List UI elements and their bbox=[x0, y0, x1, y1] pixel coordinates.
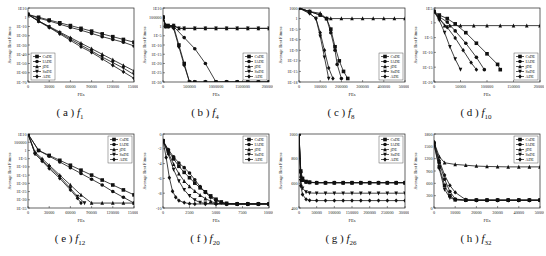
svg-text:1: 1 bbox=[24, 148, 26, 153]
svg-text:1E-18: 1E-18 bbox=[287, 80, 297, 85]
chart-svg: 1E511E-51E-101E-151E-2005000010000015000… bbox=[408, 2, 544, 102]
legend: CsDEIADEjDESaDEADE bbox=[243, 136, 267, 163]
svg-text:50000: 50000 bbox=[311, 210, 321, 215]
svg-text:120000: 120000 bbox=[107, 210, 120, 215]
svg-text:1E-20: 1E-20 bbox=[151, 61, 161, 66]
svg-text:1: 1 bbox=[24, 15, 26, 20]
caption-label: ( c ) bbox=[327, 106, 347, 118]
svg-text:200000: 200000 bbox=[363, 210, 376, 215]
svg-text:1000000: 1000000 bbox=[209, 84, 224, 89]
chart-panel-d: 1E511E-51E-101E-151E-2005000010000015000… bbox=[408, 2, 544, 130]
svg-text:Average Best Fitness: Average Best Fitness bbox=[142, 152, 147, 189]
svg-text:30000: 30000 bbox=[44, 84, 54, 89]
chart-caption: ( b ) f4 bbox=[137, 106, 273, 121]
svg-text:1E-5: 1E-5 bbox=[424, 35, 432, 40]
caption-subscript: 32 bbox=[485, 239, 492, 247]
legend: CsDEIADEjDESaDEADE bbox=[379, 53, 403, 80]
svg-text:1E-25: 1E-25 bbox=[151, 70, 161, 75]
legend: CsDEIADEjDESaDEADE bbox=[108, 136, 132, 163]
svg-text:400000: 400000 bbox=[378, 84, 391, 89]
caption-subscript: 1 bbox=[80, 113, 84, 121]
chart-caption: ( h ) f32 bbox=[408, 232, 544, 247]
svg-text:1E-15: 1E-15 bbox=[287, 69, 297, 74]
svg-text:400: 400 bbox=[291, 206, 297, 211]
svg-text:1E-25: 1E-25 bbox=[16, 189, 26, 194]
chart-panel-c: 100011E-51E-61E-91E-121E-151E-1801000002… bbox=[273, 2, 409, 130]
chart-svg: 1E1010000011E-51E-101E-151E-201E-251E-30… bbox=[137, 2, 273, 102]
svg-text:1E-30: 1E-30 bbox=[151, 80, 161, 85]
caption-label: ( f ) bbox=[190, 232, 209, 244]
caption-subscript: 10 bbox=[485, 113, 492, 121]
chart-caption: ( f ) f20 bbox=[137, 232, 273, 247]
legend: CsDEIADEjDESaDEADE bbox=[379, 136, 403, 163]
svg-text:1E-10: 1E-10 bbox=[16, 24, 26, 29]
svg-text:ADE: ADE bbox=[526, 157, 535, 162]
svg-text:1E-5: 1E-5 bbox=[289, 27, 297, 32]
chart-svg: 1000800600400050000100000150000200000250… bbox=[273, 128, 409, 228]
svg-text:Average Best Fitness: Average Best Fitness bbox=[413, 152, 418, 189]
svg-text:1E-15: 1E-15 bbox=[16, 173, 26, 178]
svg-text:200000: 200000 bbox=[335, 84, 348, 89]
svg-text:40000: 40000 bbox=[514, 210, 524, 215]
svg-text:1E10: 1E10 bbox=[153, 6, 162, 11]
svg-text:ADE: ADE bbox=[255, 157, 264, 162]
svg-text:90000: 90000 bbox=[86, 210, 96, 215]
svg-text:FEs: FEs bbox=[483, 92, 490, 97]
svg-text:ADE: ADE bbox=[391, 157, 400, 162]
svg-text:900: 900 bbox=[426, 169, 432, 174]
svg-text:-2: -2 bbox=[158, 146, 162, 151]
caption-label: ( b ) bbox=[191, 106, 212, 118]
svg-text:1E-70: 1E-70 bbox=[16, 80, 26, 85]
svg-text:FEs: FEs bbox=[77, 218, 84, 223]
legend: CsDEIADEjDESaDEADE bbox=[31, 53, 55, 80]
svg-text:1E-40: 1E-40 bbox=[16, 52, 26, 57]
svg-text:100000: 100000 bbox=[149, 15, 162, 20]
svg-text:50000: 50000 bbox=[535, 210, 544, 215]
svg-text:1E-35: 1E-35 bbox=[16, 206, 26, 211]
svg-text:60000: 60000 bbox=[65, 210, 75, 215]
svg-text:1E-5: 1E-5 bbox=[18, 156, 26, 161]
svg-text:1E-50: 1E-50 bbox=[16, 61, 26, 66]
chart-caption: ( e ) f12 bbox=[2, 232, 138, 247]
chart-panel-f: 0-2-4-6-8-10025005000750010000FEsAverage… bbox=[137, 128, 273, 256]
svg-text:90000: 90000 bbox=[86, 84, 96, 89]
svg-text:1E10: 1E10 bbox=[18, 132, 27, 137]
svg-text:1E-30: 1E-30 bbox=[16, 43, 26, 48]
svg-text:1E-20: 1E-20 bbox=[422, 80, 432, 85]
svg-text:100000: 100000 bbox=[328, 210, 341, 215]
figure-grid: 1E1011E-101E-201E-301E-401E-501E-601E-70… bbox=[0, 0, 546, 256]
svg-text:1E10: 1E10 bbox=[18, 6, 27, 11]
svg-text:Average Best Fitness: Average Best Fitness bbox=[142, 26, 147, 63]
svg-text:200000: 200000 bbox=[534, 84, 544, 89]
caption-subscript: 4 bbox=[215, 113, 219, 121]
svg-text:100000: 100000 bbox=[314, 84, 327, 89]
svg-text:1800: 1800 bbox=[424, 132, 432, 137]
svg-text:20000: 20000 bbox=[471, 210, 481, 215]
svg-text:Average Best Fitness: Average Best Fitness bbox=[278, 26, 283, 63]
caption-subscript: 20 bbox=[213, 239, 220, 247]
svg-text:30000: 30000 bbox=[492, 210, 502, 215]
chart-svg: 100011E-51E-61E-91E-121E-151E-1801000002… bbox=[273, 2, 409, 102]
caption-subscript: 12 bbox=[78, 239, 85, 247]
svg-text:7500: 7500 bbox=[238, 210, 246, 215]
svg-text:1E-60: 1E-60 bbox=[16, 70, 26, 75]
svg-text:FEs: FEs bbox=[212, 218, 219, 223]
svg-text:1E-30: 1E-30 bbox=[16, 197, 26, 202]
chart-caption: ( a ) f1 bbox=[2, 106, 138, 121]
svg-text:1000: 1000 bbox=[289, 6, 297, 11]
svg-text:1E-6: 1E-6 bbox=[289, 37, 297, 42]
legend: CsDEIADEjDESaDEADE bbox=[243, 53, 267, 80]
chart-panel-a: 1E1011E-101E-201E-301E-401E-501E-601E-70… bbox=[2, 2, 138, 130]
svg-text:800: 800 bbox=[291, 156, 297, 161]
svg-text:300: 300 bbox=[426, 193, 432, 198]
svg-text:1: 1 bbox=[430, 20, 432, 25]
svg-text:Average Best Fitness: Average Best Fitness bbox=[413, 26, 418, 63]
svg-text:2000000: 2000000 bbox=[262, 84, 273, 89]
svg-text:ADE: ADE bbox=[526, 74, 535, 79]
svg-text:600: 600 bbox=[291, 181, 297, 186]
svg-text:0: 0 bbox=[159, 132, 161, 137]
svg-text:1: 1 bbox=[295, 16, 297, 21]
chart-svg: 1800150012009006003000010000200003000040… bbox=[408, 128, 544, 228]
svg-text:1: 1 bbox=[159, 24, 161, 29]
svg-text:5000: 5000 bbox=[212, 210, 220, 215]
